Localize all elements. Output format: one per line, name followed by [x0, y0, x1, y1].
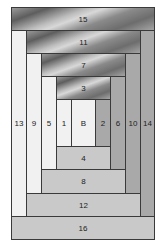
piece-label: 1: [62, 119, 66, 128]
piece-9: 9: [26, 53, 42, 194]
piece-13: 13: [11, 30, 27, 217]
piece-14: 14: [140, 30, 155, 217]
piece-label: 15: [79, 15, 88, 24]
piece-label: 11: [79, 38, 87, 47]
piece-12: 12: [26, 193, 141, 217]
piece-15: 15: [11, 7, 155, 31]
piece-5: 5: [41, 76, 57, 170]
piece-1: 1: [56, 99, 72, 147]
piece-7: 7: [41, 53, 126, 77]
piece-label: 3: [81, 84, 85, 93]
piece-label: 6: [116, 119, 120, 128]
piece-16: 16: [11, 216, 155, 240]
piece-label: 14: [143, 119, 152, 128]
piece-label: 8: [81, 177, 85, 186]
piece-label: 5: [47, 119, 51, 128]
piece-2: 2: [95, 99, 111, 147]
piece-4: 4: [56, 146, 111, 170]
piece-label: 12: [79, 201, 88, 210]
piece-10: 10: [125, 53, 141, 194]
piece-8: 8: [41, 169, 126, 194]
quilt-block: 15 11 7 3 13 9 5 1 B 2 6 10 14 4 8 12 16: [11, 7, 155, 240]
piece-center-b: B: [71, 99, 96, 147]
piece-3: 3: [56, 76, 111, 100]
piece-label: 4: [81, 154, 85, 163]
piece-6: 6: [110, 76, 126, 170]
piece-label: 9: [32, 119, 36, 128]
piece-label: 13: [15, 119, 24, 128]
piece-label: 7: [81, 61, 85, 70]
piece-label: 2: [101, 119, 105, 128]
piece-label: B: [81, 119, 86, 128]
piece-label: 16: [79, 224, 88, 233]
piece-label: 10: [129, 119, 138, 128]
piece-11: 11: [26, 30, 141, 54]
